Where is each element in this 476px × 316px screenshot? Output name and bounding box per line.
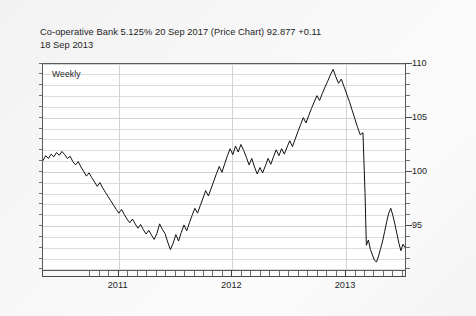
y-tick-109 xyxy=(406,73,410,74)
y-tick-left-100 xyxy=(39,171,43,172)
y-tick-label-100: 100 xyxy=(412,166,427,176)
y-tick-104 xyxy=(406,128,410,129)
y-tick-left-102 xyxy=(39,149,43,150)
x-tick-label-2013: 2013 xyxy=(335,280,356,290)
price-chart-plot-area: Weekly xyxy=(42,63,406,271)
x-tick-21 xyxy=(317,271,318,276)
x-tick-29 xyxy=(392,271,393,276)
price-series-line xyxy=(43,64,405,270)
y-tick-98 xyxy=(406,193,410,194)
y-tick-left-106 xyxy=(39,106,43,107)
y-tick-99 xyxy=(406,182,410,183)
x-tick-20 xyxy=(307,271,308,276)
x-tick-15 xyxy=(260,271,261,276)
x-tick-19 xyxy=(298,271,299,276)
plot-inner: Weekly xyxy=(43,64,405,270)
frequency-label: Weekly xyxy=(52,69,81,79)
x-tick-6 xyxy=(175,271,176,276)
x-tick-label-2012: 2012 xyxy=(221,280,242,290)
y-tick-left-95 xyxy=(39,225,43,226)
x-tick-28 xyxy=(383,271,384,276)
y-tick-left-105 xyxy=(39,117,43,118)
x-tick-22 xyxy=(326,271,327,276)
y-tick-left-91 xyxy=(39,268,43,269)
y-tick-94 xyxy=(406,236,410,237)
chart-screenshot: Co-operative Bank 5.125% 20 Sep 2017 (Pr… xyxy=(0,0,476,316)
y-tick-left-107 xyxy=(39,95,43,96)
y-tick-left-101 xyxy=(39,160,43,161)
x-tick-4 xyxy=(156,271,157,276)
y-tick-left-96 xyxy=(39,214,43,215)
x-tick-13 xyxy=(241,271,242,276)
y-tick-left-104 xyxy=(39,128,43,129)
y-tick-left-98 xyxy=(39,193,43,194)
x-tick-16 xyxy=(269,271,270,276)
chart-date-subtitle: 18 Sep 2013 xyxy=(40,39,440,52)
y-tick-left-94 xyxy=(39,236,43,237)
y-tick-96 xyxy=(406,214,410,215)
x-tick-26 xyxy=(364,271,365,276)
y-tick-left-108 xyxy=(39,84,43,85)
x-tick-10 xyxy=(212,271,213,276)
y-tick-label-110: 110 xyxy=(412,58,427,68)
y-tick-left-92 xyxy=(39,258,43,259)
y-tick-107 xyxy=(406,95,410,96)
y-tick-left-97 xyxy=(39,203,43,204)
page-title: Co-operative Bank 5.125% 20 Sep 2017 (Pr… xyxy=(40,26,440,39)
x-tick-2 xyxy=(137,271,138,276)
x-tick-0 xyxy=(118,270,119,277)
x-tick-27 xyxy=(373,271,374,276)
x-tick-30 xyxy=(402,271,403,276)
chart-title-block: Co-operative Bank 5.125% 20 Sep 2017 (Pr… xyxy=(40,26,440,52)
x-tick--2 xyxy=(99,271,100,276)
y-tick-93 xyxy=(406,247,410,248)
y-tick-left-109 xyxy=(39,73,43,74)
y-tick-left-99 xyxy=(39,182,43,183)
x-tick--3 xyxy=(89,271,90,276)
y-tick-97 xyxy=(406,203,410,204)
x-axis-left-cap xyxy=(42,271,43,277)
x-tick-1 xyxy=(127,271,128,276)
x-tick-3 xyxy=(146,271,147,276)
y-tick-left-110 xyxy=(39,63,43,64)
x-tick-18 xyxy=(288,271,289,276)
x-tick-label-2011: 2011 xyxy=(108,280,128,290)
x-tick-12 xyxy=(231,270,232,277)
x-tick-7 xyxy=(184,271,185,276)
y-tick-left-103 xyxy=(39,138,43,139)
x-tick-23 xyxy=(336,271,337,276)
y-tick-101 xyxy=(406,160,410,161)
y-tick-label-105: 105 xyxy=(412,112,427,122)
x-tick-11 xyxy=(222,271,223,276)
x-tick-9 xyxy=(203,271,204,276)
x-axis-right-cap xyxy=(405,271,406,277)
x-tick-14 xyxy=(250,271,251,276)
y-tick-103 xyxy=(406,138,410,139)
y-tick-102 xyxy=(406,149,410,150)
x-tick-24 xyxy=(345,270,346,277)
x-tick-8 xyxy=(194,271,195,276)
y-tick-92 xyxy=(406,258,410,259)
x-tick-25 xyxy=(355,271,356,276)
y-tick-108 xyxy=(406,84,410,85)
x-axis-line xyxy=(42,276,406,277)
x-tick-17 xyxy=(279,271,280,276)
x-tick--1 xyxy=(108,271,109,276)
x-tick-5 xyxy=(165,271,166,276)
y-tick-left-93 xyxy=(39,247,43,248)
y-tick-106 xyxy=(406,106,410,107)
y-tick-label-95: 95 xyxy=(412,220,422,230)
y-tick-91 xyxy=(406,268,410,269)
